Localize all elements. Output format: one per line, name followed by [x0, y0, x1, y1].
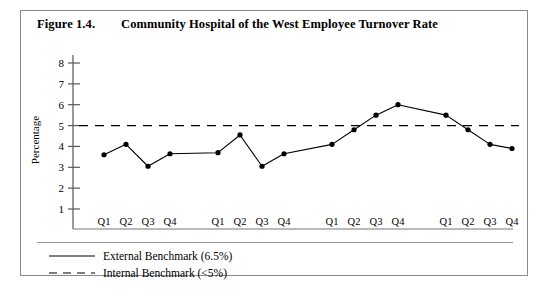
y-axis-tick-label: 8 — [59, 57, 65, 69]
data-point-marker — [259, 164, 264, 169]
data-point-marker — [167, 151, 172, 156]
y-axis-tick-label: 7 — [59, 78, 65, 90]
y-axis-tick-label: 5 — [59, 120, 65, 132]
x-axis-quarter-label: Q3 — [256, 216, 269, 227]
data-point-marker — [237, 132, 242, 137]
x-axis-quarter-label: Q1 — [326, 216, 339, 227]
y-axis-tick-label: 6 — [59, 99, 65, 111]
turnover-line-chart: 12345678PercentageQ1Q1Q1Q1Q2Q2Q2Q2Q3Q3Q3… — [21, 37, 529, 233]
data-point-marker — [395, 102, 400, 107]
figure-title: Community Hospital of the West Employee … — [121, 17, 438, 32]
chart-plot-area: 12345678PercentageQ1Q1Q1Q1Q2Q2Q2Q2Q3Q3Q3… — [21, 37, 529, 233]
x-axis-quarter-label: Q1 — [98, 216, 111, 227]
y-axis-title: Percentage — [29, 116, 41, 164]
x-axis-quarter-label: Q2 — [462, 216, 475, 227]
x-axis-quarter-label: Q2 — [348, 216, 361, 227]
figure-header: Figure 1.4. Community Hospital of the We… — [21, 17, 527, 39]
legend-label-internal: Internal Benchmark (<5%) — [95, 267, 227, 279]
x-axis-quarter-label: Q2 — [120, 216, 133, 227]
data-point-marker — [281, 151, 286, 156]
data-point-marker — [123, 142, 128, 147]
data-point-marker — [373, 113, 378, 118]
x-axis-quarter-label: Q1 — [440, 216, 453, 227]
legend-divider — [37, 242, 513, 243]
x-axis-quarter-label: Q2 — [234, 216, 247, 227]
data-series-line — [104, 105, 512, 167]
data-point-marker — [487, 142, 492, 147]
legend-item-internal: Internal Benchmark (<5%) — [49, 264, 489, 281]
chart-legend: External Benchmark (6.5%) Internal Bench… — [49, 247, 489, 281]
x-axis-quarter-label: Q4 — [392, 216, 406, 227]
x-axis-quarter-label: Q1 — [212, 216, 225, 227]
legend-label-external: External Benchmark (6.5%) — [95, 250, 232, 262]
data-point-marker — [101, 152, 106, 157]
figure-number: Figure 1.4. — [37, 17, 95, 32]
y-axis-tick-label: 3 — [59, 161, 65, 173]
data-point-marker — [215, 150, 220, 155]
y-axis-tick-label: 2 — [59, 182, 65, 194]
data-point-marker — [443, 113, 448, 118]
figure-frame: Figure 1.4. Community Hospital of the We… — [20, 10, 528, 276]
x-axis-quarter-label: Q4 — [164, 216, 178, 227]
data-point-marker — [145, 164, 150, 169]
data-point-marker — [351, 127, 356, 132]
x-axis-quarter-label: Q3 — [370, 216, 383, 227]
data-point-marker — [329, 142, 334, 147]
x-axis-quarter-label: Q4 — [278, 216, 292, 227]
legend-item-external: External Benchmark (6.5%) — [49, 247, 489, 264]
x-axis-quarter-label: Q3 — [142, 216, 155, 227]
y-axis-tick-label: 4 — [59, 140, 65, 152]
data-point-marker — [465, 127, 470, 132]
data-point-marker — [509, 146, 514, 151]
solid-line-icon — [49, 251, 95, 261]
x-axis-quarter-label: Q4 — [506, 216, 520, 227]
x-axis-quarter-label: Q3 — [484, 216, 497, 227]
dashed-line-icon — [49, 268, 95, 278]
y-axis-tick-label: 1 — [59, 203, 65, 215]
